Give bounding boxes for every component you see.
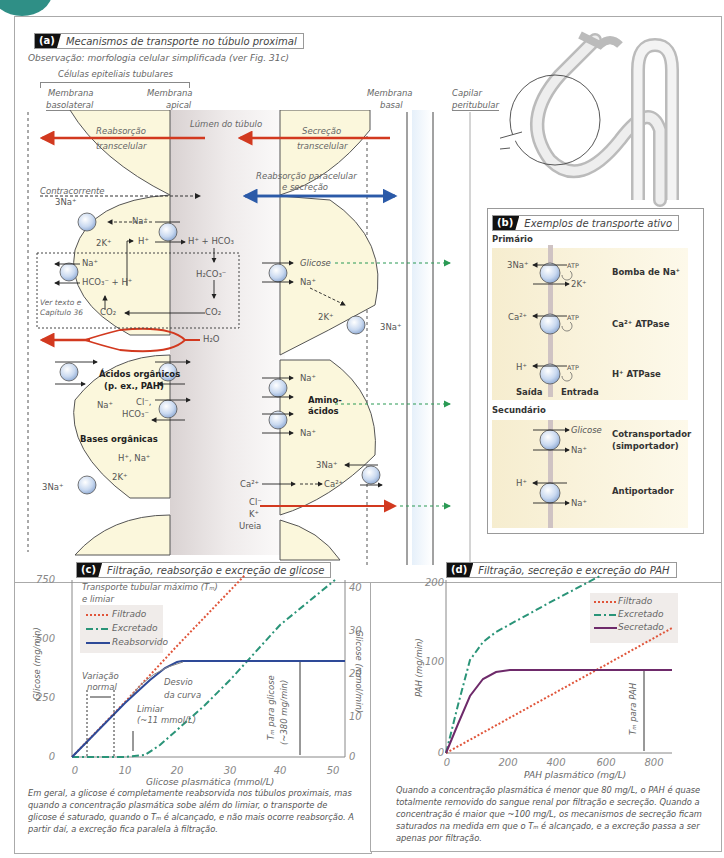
ion-label: 2K⁺ [318,312,333,322]
na-pump-label: Bomba de Na⁺ [612,267,680,277]
ion-label: 3Na⁺ [316,460,337,470]
legend-excreted: Excretado [618,609,663,619]
tm-pah-label: Tₘ para PAH [628,683,638,735]
paracellular-label: Reabsorção paracelular [256,171,357,181]
threshold-label: Limiar [137,704,163,714]
amino-acids-label-2: ácidos [308,406,339,416]
svg-text:0: 0 [72,765,78,775]
secondary-label: Secundário [492,405,546,415]
ion-label: Glicose [571,425,602,435]
svg-text:30: 30 [224,765,237,775]
chart-c-ylabel: Glicose (mg/min) [32,627,42,700]
reabsorption-transcellular-label: Reabsorção [96,126,146,136]
ion-label: 2K⁺ [571,279,586,289]
ion-label: H⁺, Na⁺ [118,453,150,463]
ion-label: Ca²⁺ [240,479,259,489]
ion-label: H₂CO₃⁻ [196,269,226,279]
tm-glucose-label: Tₘ para glicose [266,675,276,740]
svg-text:0: 0 [49,751,55,762]
chart-c-subtitle-2: e limiar [82,594,114,604]
ion-label: Ca²⁺ [324,479,343,489]
svg-text:0: 0 [444,757,450,768]
panel-c-caption: Em geral, a glicose é completamente reab… [28,787,358,835]
ion-label: Ca²⁺ [508,312,527,322]
ion-label: Na⁺ [571,445,587,455]
ion-label: Ureia [239,521,261,531]
ion-label: Cl⁻ [249,497,262,507]
ion-label: HCO₃⁻ + H⁺ [82,277,132,287]
tm-glucose-label-2: (~380 mg/min) [279,680,289,745]
ion-label: CO₂ [100,307,116,317]
chart-d-xlabel: PAH plasmático (mg/L) [524,770,626,780]
ion-label: Na⁺ [97,400,113,410]
chart-c-subtitle: Transporte tubular máximo (Tₘ) [82,582,218,592]
panel-a-title: (a) Mecanismos de transporte no túbulo p… [34,33,304,49]
ion-label: H⁺ [516,362,527,372]
ion-label: Cl⁻, [136,397,152,407]
glucose-label: Glicose [300,258,331,268]
ca-atpase-label: Ca²⁺ ATPase [612,319,669,329]
svg-text:40: 40 [274,765,287,775]
membrane-basal-label-2: basal [380,100,403,110]
threshold-label-2: (~11 mmol/L) [137,715,196,725]
glucose-chart: 750500 2500 403020100 01020 304050 [0,575,372,775]
legend-filtered: Filtrado [112,609,146,619]
organic-bases-label: Bases orgânicas [80,434,158,444]
cells-label: Células epiteliais tubulares [58,69,173,79]
ion-label: Na⁺ [132,216,148,226]
svg-text:100: 100 [425,656,444,667]
svg-text:750: 750 [36,575,55,585]
panel-a-note: Observação: morfologia celular simplific… [28,53,289,63]
corner-badge [0,0,52,16]
ion-label: Na⁺ [82,258,98,268]
proximal-tubule-diagram [0,110,480,565]
ion-label: Na⁺ [300,277,316,287]
nephron-icon [500,20,720,210]
panel-b-title: (b) Exemplos de transporte ativo [492,215,679,231]
lumen-label: Lúmen do túbulo [190,119,262,129]
see-text-note-2: Capítulo 36 [40,308,83,317]
atp-label: ATP [567,364,579,372]
organic-acids-label-2: (p. ex., PAH) [104,381,164,391]
antiporter-label: Antiportador [612,486,674,496]
ion-label: 3Na⁺ [507,260,528,270]
ion-label: CO₂ [205,307,221,317]
svg-text:200: 200 [498,757,517,768]
svg-text:20: 20 [171,765,184,775]
svg-text:40: 40 [349,582,362,593]
see-text-note: Ver texto e [40,298,81,307]
splay-label-2: da curva [164,690,201,700]
ion-label: 2K⁺ [96,238,111,248]
legend-reabsorbed: Reabsorvido [112,637,168,647]
ion-label: Na⁺ [300,428,316,438]
ion-label: Na⁺ [571,498,587,508]
ion-label: 3Na⁺ [55,197,76,207]
amino-acids-label: Amino- [308,395,342,405]
out-label: Saída [516,387,543,397]
legend-filtered: Filtrado [618,596,652,606]
countercurrent-label: Contracorrente [40,186,105,196]
svg-text:200: 200 [425,577,444,588]
ion-label: H⁺ + HCO₃ [188,236,234,246]
atp-label: ATP [567,262,579,270]
reabsorption-transcellular-label-2: transcelular [96,141,147,151]
cotransporter-label-2: (simportador) [612,441,679,451]
svg-text:10: 10 [119,765,132,775]
chart-c-ylabel-right: Glicose (mmol/min) [354,630,364,713]
in-label: Entrada [561,387,599,397]
svg-text:50: 50 [327,765,340,775]
legend-secreted: Secretado [618,622,664,632]
cotransporter-label: Cotransportador [612,429,691,439]
normal-range-label-2: normal [87,682,117,692]
svg-text:400: 400 [546,757,565,768]
normal-range-label: Variação [82,671,119,681]
ion-label: Na⁺ [300,373,316,383]
splay-label: Desvio [164,677,193,687]
atp-label: ATP [567,314,579,322]
ion-label: 2K⁺ [112,472,127,482]
chart-c-xlabel: Glicose plasmática (mmol/L) [146,777,274,787]
ion-label: K⁺ [249,509,259,519]
svg-text:800: 800 [644,757,663,768]
h-atpase-label: H⁺ ATPase [612,369,661,379]
membrane-apical-label: Membrana [147,88,193,98]
